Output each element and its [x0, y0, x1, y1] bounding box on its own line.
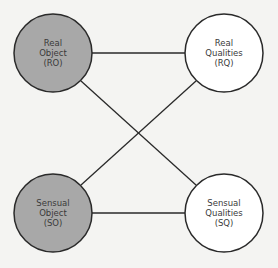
node-label-line: (SO) [44, 218, 63, 228]
node-label-line: Sensual [207, 198, 240, 208]
node-real-qualities: Real Qualities (RQ) [185, 14, 263, 92]
node-label-line: Object [39, 208, 67, 218]
node-sensual-qualities: Sensual Qualities (SQ) [185, 174, 263, 252]
node-label-line: Qualities [205, 48, 243, 58]
node-label-line: Sensual [36, 198, 69, 208]
node-label-line: (RQ) [214, 58, 233, 68]
node-real-object: Real Object (RO) [14, 14, 92, 92]
quadruple-object-diagram: Real Object (RO) Real Qualities (RQ) Sen… [0, 0, 278, 268]
node-label-line: (RO) [43, 58, 62, 68]
node-label-line: Object [39, 48, 67, 58]
node-label-line: Real [215, 38, 233, 48]
node-label-line: Qualities [205, 208, 243, 218]
node-label-line: Real [44, 38, 62, 48]
node-label-line: (SQ) [215, 218, 234, 228]
node-sensual-object: Sensual Object (SO) [14, 174, 92, 252]
